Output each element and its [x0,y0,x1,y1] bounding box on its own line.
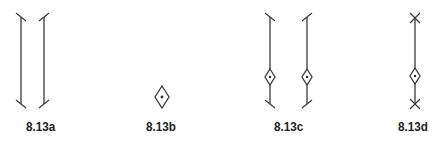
figure-8-13: 8.13a 8.13b 8.13c 8.13d [0,0,438,145]
panel-8-13b-graphic [155,86,169,108]
diamond-marker-icon [302,69,312,85]
panel-label-8-13d: 8.13d [398,119,428,134]
dimension-line [410,13,420,109]
diamond-marker-icon [155,86,169,108]
panel-8-13d-graphic [410,13,420,109]
dimension-line-left [265,13,275,108]
figure-canvas [0,0,438,145]
panel-8-13c-graphic [265,13,312,108]
dimension-line-left [16,13,26,108]
panel-label-8-13b: 8.13b [146,119,176,134]
panel-label-8-13a: 8.13a [26,119,55,134]
panel-8-13a-graphic [16,13,49,108]
dimension-line-right [39,13,49,108]
dimension-line-right [302,13,312,108]
panel-label-8-13c: 8.13c [274,119,303,134]
diamond-marker-icon [265,69,275,85]
diamond-marker-icon [410,68,420,84]
